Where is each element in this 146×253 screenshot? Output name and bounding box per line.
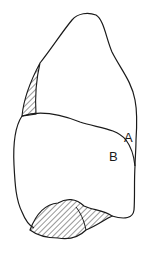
lobe-boundary bbox=[22, 113, 135, 166]
lower-body-outline bbox=[14, 116, 34, 228]
bottom-hatched-region bbox=[30, 200, 112, 239]
specimen-diagram: A B bbox=[0, 0, 146, 253]
label-a: A bbox=[124, 130, 133, 145]
label-b: B bbox=[109, 149, 118, 164]
upper-lobe-outline bbox=[40, 13, 137, 140]
left-hatched-region bbox=[22, 63, 40, 116]
